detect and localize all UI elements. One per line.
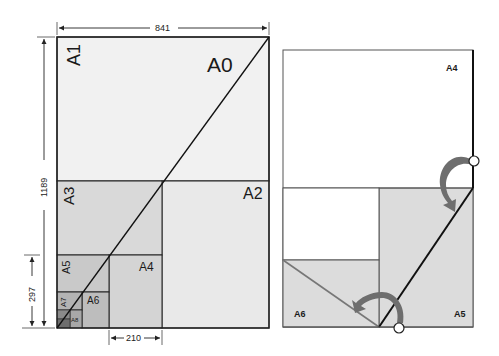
label-a3: A3 — [60, 187, 77, 205]
left-figure: A0 A1 A2 A3 A4 A5 A6 A7 A8 841 1189 — [22, 22, 269, 345]
label-right-a5: A5 — [454, 309, 466, 319]
dimension-label-1189: 1189 — [39, 178, 49, 197]
label-a2: A2 — [243, 185, 263, 202]
dimension-label-841: 841 — [155, 23, 170, 33]
dimension-width-a0: 841 — [57, 22, 269, 35]
region-a1 — [57, 37, 269, 181]
label-a1: A1 — [64, 44, 84, 66]
region-a10 — [57, 319, 70, 328]
region-a2 — [162, 181, 269, 328]
label-a0: A0 — [207, 53, 233, 76]
label-a8: A8 — [71, 317, 79, 323]
label-a7: A7 — [59, 297, 68, 307]
label-a6: A6 — [87, 295, 100, 306]
label-right-a6: A6 — [294, 309, 306, 319]
dimension-label-210: 210 — [126, 333, 141, 343]
region-a9 — [57, 310, 70, 319]
dimension-width-a4: 210 — [109, 330, 162, 345]
region-a4 — [109, 255, 162, 328]
dimension-label-297: 297 — [27, 287, 37, 302]
label-a5: A5 — [60, 261, 72, 274]
label-right-a4: A4 — [446, 63, 458, 73]
right-figure: A4 A5 A6 — [283, 50, 479, 333]
blank-square — [283, 188, 379, 260]
dimension-height-a4: 297 — [24, 255, 40, 326]
dimension-height-a0: 1189 — [22, 37, 55, 328]
label-a4: A4 — [139, 260, 154, 274]
fold-pivot-upper-icon — [469, 156, 479, 166]
fold-pivot-lower-icon — [394, 323, 404, 333]
diagram-canvas: A0 A1 A2 A3 A4 A5 A6 A7 A8 841 1189 — [0, 0, 499, 356]
